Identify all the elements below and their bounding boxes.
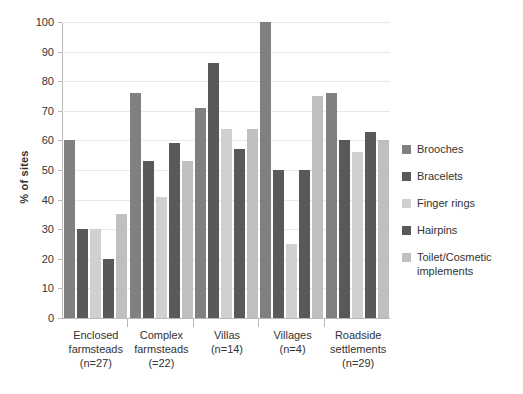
bar [352,152,363,318]
x-axis-label-line: (n=4) [260,342,326,356]
chart-figure: % of sites 0102030405060708090100 Enclos… [0,0,523,394]
bar [130,93,141,318]
legend-item[interactable]: Toilet/Cosmetic implements [402,250,520,278]
bar-group [128,22,193,318]
bar [103,259,114,318]
y-axis-tick [58,22,62,23]
plot-area: 0102030405060708090100 [62,22,390,318]
gridline [62,318,390,319]
legend-swatch-icon [402,199,411,208]
bar [64,140,75,318]
bar [365,132,376,318]
legend-item-label: Bracelets [417,169,463,183]
legend-item[interactable]: Finger rings [402,196,520,210]
bar [116,214,127,318]
bar-group [259,22,324,318]
x-axis-label-line: (n=14) [194,342,260,356]
x-axis-tick-label: Enclosedfarmsteads(n=27) [63,328,129,370]
y-axis-title: % of sites [18,127,40,227]
legend-item-label: Hairpins [417,223,457,237]
y-axis-tick-label: 80 [42,75,54,87]
bar [286,244,297,318]
y-axis-tick-label: 40 [42,194,54,206]
y-axis-tick-label: 20 [42,253,54,265]
bar [234,149,245,318]
y-axis-tick [58,229,62,230]
x-axis-label-line: (=22) [129,356,195,370]
bar [77,229,88,318]
bar [195,108,206,318]
legend-swatch-icon [402,145,411,154]
legend-item[interactable]: Bracelets [402,169,520,183]
legend-item[interactable]: Hairpins [402,223,520,237]
y-axis-tick [58,52,62,53]
category-separator-tick [324,318,325,327]
x-axis-label-line: settlements [325,342,391,356]
legend: BroochesBraceletsFinger ringsHairpinsToi… [402,142,520,291]
legend-item[interactable]: Brooches [402,142,520,156]
y-axis-tick-label: 0 [48,312,54,324]
bar [326,93,337,318]
bar-group [325,22,390,318]
x-axis-tick-label: Villas(n=14) [194,328,260,370]
y-axis-tick-label: 50 [42,164,54,176]
legend-swatch-icon [402,253,411,262]
bar [339,140,350,318]
y-axis-tick [58,140,62,141]
bar [156,197,167,318]
bar [221,129,232,318]
bar [312,96,323,318]
y-axis-tick [58,200,62,201]
y-axis-tick-label: 100 [36,16,54,28]
y-axis-tick [58,288,62,289]
y-axis-tick-label: 30 [42,223,54,235]
x-axis-label-line: farmsteads [63,342,129,356]
bar [182,161,193,318]
x-axis-label-line: Roadside [325,328,391,342]
y-axis-tick [58,170,62,171]
bar [378,140,389,318]
bar [260,22,271,318]
x-axis-label-line: Villages [260,328,326,342]
bar [208,63,219,318]
y-axis-tick-label: 60 [42,134,54,146]
bar [169,143,180,318]
y-axis-tick-label: 90 [42,46,54,58]
legend-item-label: Toilet/Cosmetic implements [417,250,520,278]
x-axis-labels: Enclosedfarmsteads(n=27)Complexfarmstead… [63,328,391,370]
y-axis-tick [58,81,62,82]
x-axis-label-line: Complex [129,328,195,342]
bar [273,170,284,318]
bar [143,161,154,318]
category-separator-tick [193,318,194,327]
legend-item-label: Finger rings [417,196,475,210]
x-axis-tick-label: Villages(n=4) [260,328,326,370]
bar-group [194,22,259,318]
bar [90,229,101,318]
x-axis-label-line: Villas [194,328,260,342]
legend-item-label: Brooches [417,142,463,156]
bar-group [63,22,128,318]
x-axis-label-line: (n=29) [325,356,391,370]
y-axis-tick [58,259,62,260]
legend-swatch-icon [402,226,411,235]
y-axis-tick [58,318,62,319]
y-axis-tick [58,111,62,112]
x-axis-label-line: (n=27) [63,356,129,370]
x-axis-tick-label: Complexfarmsteads(=22) [129,328,195,370]
bar [247,129,258,318]
x-axis-label-line: Enclosed [63,328,129,342]
y-axis-tick-label: 10 [42,282,54,294]
legend-swatch-icon [402,172,411,181]
category-separator-tick [258,318,259,327]
category-separator-tick [127,318,128,327]
x-axis-label-line: farmsteads [129,342,195,356]
y-axis-tick-label: 70 [42,105,54,117]
bar-groups [63,22,390,318]
x-axis-tick-label: Roadsidesettlements(n=29) [325,328,391,370]
bar [299,170,310,318]
